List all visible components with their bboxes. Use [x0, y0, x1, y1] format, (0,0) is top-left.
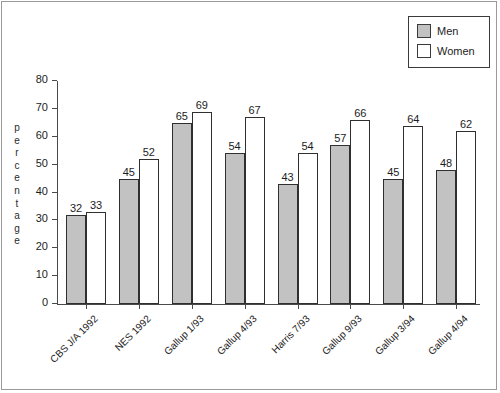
bar-value-label: 57 [334, 132, 346, 144]
chart-legend: Men Women [408, 16, 490, 68]
bar-value-label: 43 [281, 171, 293, 183]
x-axis-category-label: CBS J/A 1992 [48, 313, 100, 365]
y-axis-tick-label: 0 [42, 296, 48, 308]
x-axis-tick [86, 305, 87, 309]
y-axis-tick: 50 [52, 164, 57, 165]
y-axis-tick-label: 10 [36, 268, 48, 280]
y-axis-title-letter: p [10, 122, 24, 135]
y-axis-tick: 80 [52, 80, 57, 81]
x-axis-line [57, 304, 480, 305]
bar-men: 45 [119, 179, 139, 304]
y-axis-line [57, 81, 58, 305]
x-axis-tick [192, 305, 193, 309]
y-axis-tick-label: 40 [36, 185, 48, 197]
bar-men: 32 [66, 215, 86, 304]
y-axis-title-letter: c [10, 160, 24, 173]
bar-value-label: 66 [354, 107, 366, 119]
y-axis-tick-label: 80 [36, 73, 48, 85]
legend-swatch-men [417, 24, 431, 38]
y-axis-title-letter: e [10, 172, 24, 185]
y-axis-tick: 10 [52, 275, 57, 276]
x-axis-tick [298, 305, 299, 309]
bar-men: 43 [278, 184, 298, 304]
x-axis-category-label: Gallup 1/93 [162, 313, 206, 357]
bar-value-label: 32 [70, 202, 82, 214]
y-axis-title-letter: n [10, 185, 24, 198]
y-axis-tick-label: 20 [36, 240, 48, 252]
x-axis-tick [456, 305, 457, 309]
y-axis-tick-label: 30 [36, 212, 48, 224]
legend-label-women: Women [437, 44, 475, 58]
bar-value-label: 48 [440, 157, 452, 169]
y-axis-tick: 20 [52, 247, 57, 248]
bar-women: 54 [298, 153, 318, 304]
y-axis-title-letter: t [10, 198, 24, 211]
bar-women: 67 [245, 117, 265, 304]
bar-value-label: 45 [123, 166, 135, 178]
bar-women: 64 [403, 126, 423, 304]
bar-women: 69 [192, 112, 212, 304]
x-axis-tick [139, 305, 140, 309]
bar-women: 33 [86, 212, 106, 304]
x-axis-tick [403, 305, 404, 309]
bar-value-label: 33 [90, 199, 102, 211]
bar-value-label: 69 [196, 99, 208, 111]
bar-value-label: 62 [460, 118, 472, 130]
bar-value-label: 65 [176, 110, 188, 122]
y-axis-title-letter: a [10, 210, 24, 223]
legend-label-men: Men [437, 24, 458, 38]
y-axis-title-letter: r [10, 147, 24, 160]
bar-value-label: 54 [301, 140, 313, 152]
y-axis-title-letter: e [10, 135, 24, 148]
y-axis-tick: 30 [52, 219, 57, 220]
y-axis-tick: 70 [52, 108, 57, 109]
x-axis-tick [350, 305, 351, 309]
x-axis-category-label: Gallup 4/93 [214, 313, 258, 357]
bar-men: 45 [383, 179, 403, 304]
x-axis-category-label: NES 1992 [113, 313, 153, 353]
y-axis-tick-label: 50 [36, 157, 48, 169]
plot-area: 01020304050607080 3233455265695467435457… [57, 81, 480, 305]
bar-men: 48 [436, 170, 456, 304]
y-axis-title-letter: g [10, 223, 24, 236]
bar-men: 65 [172, 123, 192, 304]
bar-men: 57 [330, 145, 350, 304]
bar-chart-figure: Men Women percentage 01020304050607080 3… [0, 0, 500, 393]
bar-men: 54 [225, 153, 245, 304]
x-axis-category-label: Gallup 9/93 [320, 313, 364, 357]
y-axis-tick-label: 60 [36, 129, 48, 141]
legend-swatch-women [417, 44, 431, 58]
x-axis-category-label: Harris 7/93 [269, 313, 311, 355]
x-axis-category-label: Gallup 3/94 [373, 313, 417, 357]
bar-value-label: 45 [387, 166, 399, 178]
bar-women: 52 [139, 159, 159, 304]
legend-item-men: Men [417, 24, 458, 38]
x-axis-category-label: Gallup 4/94 [426, 313, 470, 357]
y-axis-tick: 0 [52, 303, 57, 304]
y-axis-tick-label: 70 [36, 101, 48, 113]
y-axis-title: percentage [10, 122, 24, 248]
bar-value-label: 54 [229, 140, 241, 152]
bar-value-label: 64 [407, 113, 419, 125]
bar-value-label: 52 [143, 146, 155, 158]
x-axis-tick [245, 305, 246, 309]
y-axis-tick: 60 [52, 136, 57, 137]
bar-women: 62 [456, 131, 476, 304]
bar-value-label: 67 [249, 104, 261, 116]
y-axis-title-letter: e [10, 235, 24, 248]
legend-item-women: Women [417, 44, 475, 58]
bar-women: 66 [350, 120, 370, 304]
y-axis-tick: 40 [52, 192, 57, 193]
